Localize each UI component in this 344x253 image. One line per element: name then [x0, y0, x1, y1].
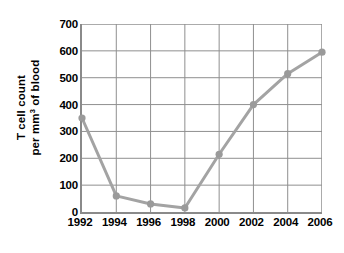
x-tick-label: 1992	[68, 216, 93, 228]
x-tick-label: 2000	[205, 216, 230, 228]
plot-area	[80, 24, 322, 214]
y-tick-label: 300	[48, 125, 78, 137]
data-point-marker	[318, 49, 325, 56]
data-point-marker	[250, 101, 257, 108]
y-axis-title-line-2-prefix: per mm	[29, 113, 41, 155]
data-point-marker	[147, 200, 154, 207]
y-axis-title-line-2: per mm3 of blood	[29, 60, 43, 156]
data-point-marker	[284, 70, 291, 77]
y-axis-title-line-1: T cell count	[15, 75, 29, 140]
y-tick-label: 600	[48, 45, 78, 57]
x-tick-label: 2004	[273, 216, 298, 228]
data-point-marker	[78, 114, 85, 121]
y-tick-label: 400	[48, 99, 78, 111]
data-point-marker	[216, 151, 223, 158]
x-tick-label: 2002	[239, 216, 264, 228]
line-chart: T cell count per mm3 of blood 0100200300…	[0, 0, 344, 253]
x-tick-label: 1998	[170, 216, 195, 228]
data-point-marker	[181, 204, 188, 211]
x-tick-label: 1996	[136, 216, 161, 228]
x-axis-tick-labels: 19921994199619982000200220042006	[80, 216, 320, 236]
data-series	[82, 24, 322, 212]
y-axis-title-superscript: 3	[27, 109, 36, 113]
y-axis-title-line-2-suffix: of blood	[29, 60, 41, 109]
x-tick-label: 1994	[102, 216, 127, 228]
y-tick-label: 200	[48, 152, 78, 164]
data-point-marker	[113, 192, 120, 199]
y-axis-title: T cell count per mm3 of blood	[4, 0, 54, 215]
y-tick-label: 700	[48, 18, 78, 30]
y-axis-title-text: T cell count per mm3 of blood	[15, 60, 42, 156]
x-tick-label: 2006	[308, 216, 333, 228]
y-tick-label: 100	[48, 179, 78, 191]
y-tick-label: 500	[48, 72, 78, 84]
